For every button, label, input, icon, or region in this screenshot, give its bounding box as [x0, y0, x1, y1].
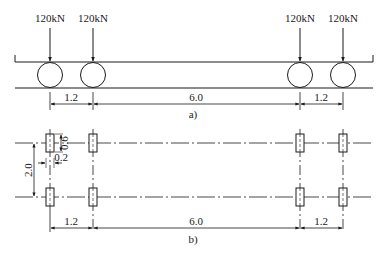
- wheel-1: [38, 63, 63, 88]
- diagram-canvas: 120kN 120kN 120kN 120kN 1.2 6.0 1.2 a): [0, 0, 386, 253]
- load-label: 120kN: [35, 12, 65, 24]
- dim-label-2-0: 2.0: [22, 163, 34, 177]
- dim-label: 6.0: [189, 91, 203, 103]
- wheel-2: [81, 63, 106, 88]
- load-label: 120kN: [78, 12, 108, 24]
- dim-label-0-6: 0.6: [58, 136, 70, 150]
- dim-label: 1.2: [64, 215, 78, 227]
- dim-label-0-2: 0.2: [54, 151, 68, 163]
- dim-label: 1.2: [314, 215, 328, 227]
- caption-b: b): [188, 233, 198, 246]
- dim-label: 6.0: [189, 215, 203, 227]
- wheel-3: [288, 63, 313, 88]
- wheel-4: [331, 63, 356, 88]
- load-label: 120kN: [285, 12, 315, 24]
- load-label: 120kN: [328, 12, 358, 24]
- dim-label: 1.2: [314, 91, 328, 103]
- dim-label: 1.2: [64, 91, 78, 103]
- caption-a: a): [189, 108, 198, 121]
